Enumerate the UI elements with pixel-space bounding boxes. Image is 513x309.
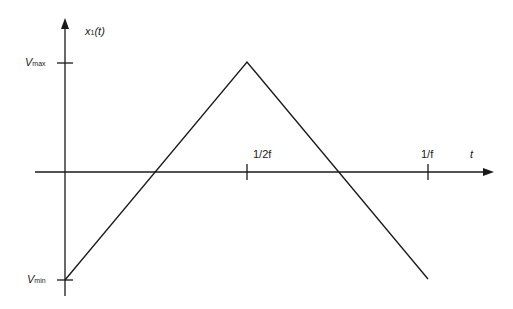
period-label: 1/f	[421, 148, 433, 160]
x-axis-arrow-icon	[483, 168, 494, 176]
x-axis-label: t	[470, 148, 473, 160]
triangle-wave-diagram: x1(t) Vmax Vmin 1/2f 1/f t	[0, 0, 513, 309]
vmin-label: Vmin	[27, 273, 46, 285]
vmax-label: Vmax	[25, 56, 46, 68]
y-axis-label: x1(t)	[85, 25, 105, 37]
y-axis-arrow-icon	[61, 18, 69, 29]
half-period-label: 1/2f	[253, 148, 271, 160]
